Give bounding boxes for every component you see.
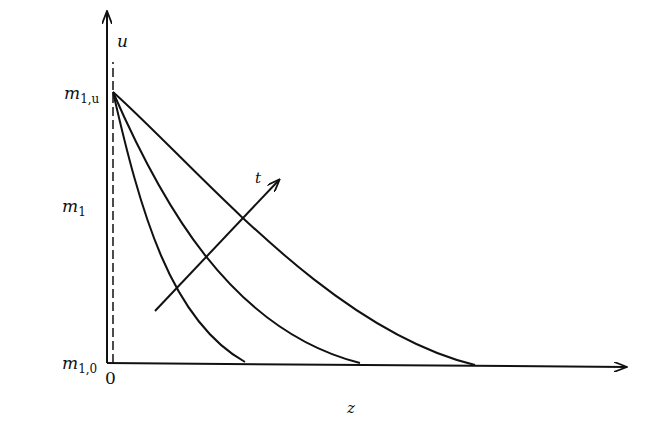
y-axis-label: m1	[62, 198, 86, 218]
time-arrow	[155, 180, 279, 311]
curve-3	[113, 92, 475, 365]
origin-label: 0	[105, 370, 116, 387]
x-axis-label: z	[347, 401, 355, 416]
t-label: t	[255, 171, 261, 186]
y-tick-m10: m1,0	[62, 355, 97, 375]
y-tick-m1u-main: m	[64, 83, 80, 103]
y-axis-label-sub: 1	[78, 205, 86, 219]
y-tick-m1u: m1,u	[64, 85, 99, 105]
y-axis-label-main: m	[62, 196, 78, 216]
x-axis	[107, 363, 626, 367]
y-tick-m10-sub: 1,0	[78, 362, 97, 376]
y-tick-m10-main: m	[62, 353, 78, 373]
curve-1	[113, 92, 245, 362]
diagram-canvas	[0, 0, 654, 426]
y-tick-m1u-sub: 1,u	[80, 92, 99, 106]
u-label: u	[117, 33, 128, 50]
